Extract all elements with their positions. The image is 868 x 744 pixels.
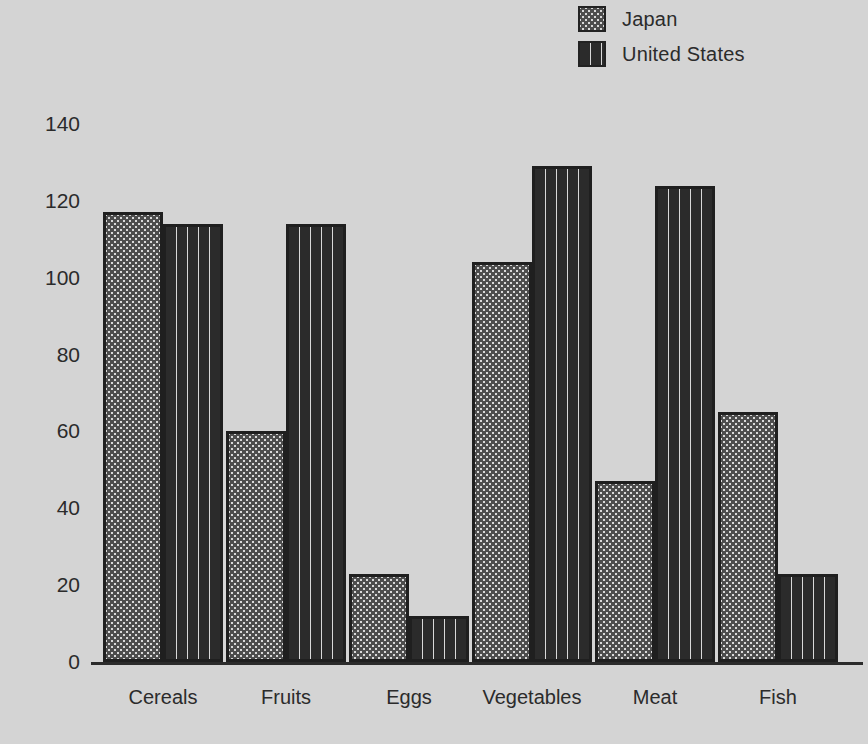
y-tick-label-120: 120 (18, 189, 80, 213)
plot-area: 020406080100120140 CerealsFruitsEggsVege… (0, 0, 868, 744)
x-tick-label-vegetables: Vegetables (483, 686, 582, 709)
x-axis-line (91, 662, 863, 665)
bar-eggs-japan (349, 574, 409, 662)
bar-fruits-united-states (286, 224, 346, 662)
y-tick-label-140: 140 (18, 112, 80, 136)
bar-chart: Japan United States 020406080100120140 C… (0, 0, 868, 744)
x-tick-label-fish: Fish (759, 686, 797, 709)
x-tick-label-eggs: Eggs (386, 686, 432, 709)
x-tick-label-meat: Meat (633, 686, 677, 709)
bar-vegetables-japan (472, 262, 532, 662)
bar-fish-united-states (778, 574, 838, 662)
bar-cereals-japan (103, 212, 163, 662)
bar-fish-japan (718, 412, 778, 662)
y-tick-label-20: 20 (18, 573, 80, 597)
y-tick-label-100: 100 (18, 266, 80, 290)
bar-fruits-japan (226, 431, 286, 662)
y-tick-label-0: 0 (18, 650, 80, 674)
x-tick-label-cereals: Cereals (129, 686, 198, 709)
y-tick-label-40: 40 (18, 496, 80, 520)
bar-cereals-united-states (163, 224, 223, 662)
bar-vegetables-united-states (532, 166, 592, 662)
x-tick-label-fruits: Fruits (261, 686, 311, 709)
bar-meat-united-states (655, 186, 715, 663)
y-tick-label-80: 80 (18, 343, 80, 367)
bar-eggs-united-states (409, 616, 469, 662)
bar-meat-japan (595, 481, 655, 662)
y-tick-label-60: 60 (18, 419, 80, 443)
